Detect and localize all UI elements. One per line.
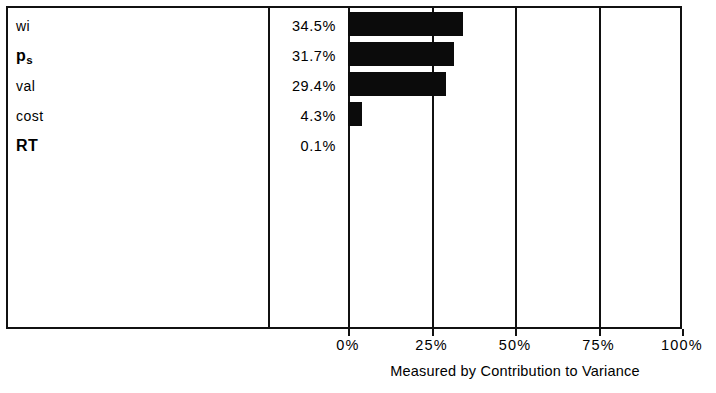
variance-contribution-chart: wipsvalcostRT 34.5%31.7%29.4%4.3%0.1% 0%… xyxy=(0,0,716,393)
category-label-wi: wi xyxy=(16,11,30,41)
category-label-p-s: ps xyxy=(16,41,33,71)
value-label-cost: 4.3% xyxy=(301,101,336,131)
category-label-val: val xyxy=(16,71,35,101)
tick-label-50pct: 50% xyxy=(499,337,532,353)
bars-plot-area xyxy=(348,6,682,329)
tick-100pct xyxy=(682,329,684,336)
value-label-val: 29.4% xyxy=(292,71,336,101)
tick-25pct xyxy=(432,329,434,336)
value-label-rt: 0.1% xyxy=(301,131,336,161)
bar-val xyxy=(348,72,446,96)
bar-wi xyxy=(348,12,463,36)
value-label-column: 34.5%31.7%29.4%4.3%0.1% xyxy=(270,6,342,329)
tick-label-0pct: 0% xyxy=(336,337,359,353)
tick-50pct xyxy=(515,329,517,336)
value-label-p-s: 31.7% xyxy=(292,41,336,71)
tick-label-100pct: 100% xyxy=(661,337,703,353)
tick-label-25pct: 25% xyxy=(415,337,448,353)
bar-p-s xyxy=(348,42,454,66)
value-label-wi: 34.5% xyxy=(292,11,336,41)
category-label-column: wipsvalcostRT xyxy=(8,6,266,329)
x-axis-caption: Measured by Contribution to Variance xyxy=(348,363,682,379)
tick-75pct xyxy=(599,329,601,336)
tick-0pct xyxy=(348,329,350,336)
tick-label-75pct: 75% xyxy=(582,337,615,353)
category-label-rt: RT xyxy=(16,131,38,161)
category-label-cost: cost xyxy=(16,101,44,131)
bar-cost xyxy=(348,102,362,126)
